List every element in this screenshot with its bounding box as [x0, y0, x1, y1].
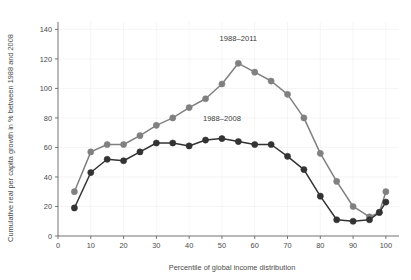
- x-tick-label: 60: [251, 241, 259, 250]
- data-point-marker: [252, 69, 258, 75]
- data-point-marker: [334, 178, 340, 184]
- data-point-marker: [235, 60, 241, 66]
- data-point-marker: [334, 217, 340, 223]
- chart-container: 020406080100120140 010203040506070809010…: [0, 0, 411, 280]
- data-point-marker: [268, 78, 274, 84]
- data-point-marker: [366, 217, 372, 223]
- x-tick-label: 30: [152, 241, 160, 250]
- x-tick-label: 70: [283, 241, 291, 250]
- data-point-marker: [301, 115, 307, 121]
- data-point-marker: [350, 203, 356, 209]
- data-point-marker: [71, 189, 77, 195]
- y-tick-label: 140: [40, 25, 52, 34]
- x-tick-label: 90: [349, 241, 357, 250]
- data-point-marker: [219, 81, 225, 87]
- data-point-marker: [88, 149, 94, 155]
- y-tick-label: 20: [44, 202, 52, 211]
- x-axis-title: Percentile of global income distribution: [169, 263, 296, 272]
- data-point-marker: [301, 166, 307, 172]
- data-point-marker: [317, 193, 323, 199]
- x-tick-label: 20: [119, 241, 127, 250]
- y-axis-title: Cumulative real per capita growth in % b…: [6, 34, 15, 242]
- data-point-marker: [137, 133, 143, 139]
- x-tick-label: 80: [316, 241, 324, 250]
- y-tick-label: 0: [48, 232, 52, 241]
- data-point-marker: [153, 140, 159, 146]
- x-tick-label: 0: [56, 241, 60, 250]
- data-point-marker: [202, 96, 208, 102]
- data-point-marker: [88, 169, 94, 175]
- y-tick-label: 60: [44, 143, 52, 152]
- data-point-marker: [376, 209, 382, 215]
- x-tick-label: 40: [185, 241, 193, 250]
- data-point-marker: [383, 189, 389, 195]
- data-point-marker: [252, 141, 258, 147]
- data-point-marker: [137, 149, 143, 155]
- data-point-marker: [202, 137, 208, 143]
- x-tick-label: 50: [218, 241, 226, 250]
- data-point-marker: [317, 150, 323, 156]
- y-tick-label: 40: [44, 173, 52, 182]
- data-point-marker: [71, 205, 77, 211]
- annotation-label-1988-2011: 1988–2011: [220, 34, 257, 43]
- y-tick-label: 100: [40, 84, 52, 93]
- y-tick-label: 80: [44, 114, 52, 123]
- data-point-marker: [268, 141, 274, 147]
- chart-svg: 020406080100120140 010203040506070809010…: [0, 0, 411, 280]
- data-point-marker: [120, 141, 126, 147]
- data-point-marker: [120, 158, 126, 164]
- data-point-marker: [219, 135, 225, 141]
- data-point-marker: [350, 218, 356, 224]
- annotation-label-1988-2008: 1988–2008: [203, 114, 241, 123]
- data-point-marker: [170, 115, 176, 121]
- data-point-marker: [284, 153, 290, 159]
- data-point-marker: [104, 156, 110, 162]
- data-point-marker: [284, 91, 290, 97]
- data-point-marker: [170, 140, 176, 146]
- data-point-marker: [104, 141, 110, 147]
- data-point-marker: [186, 143, 192, 149]
- data-point-marker: [153, 122, 159, 128]
- data-point-marker: [235, 138, 241, 144]
- y-tick-label: 120: [40, 55, 52, 64]
- x-tick-label: 10: [87, 241, 95, 250]
- data-point-marker: [383, 199, 389, 205]
- data-point-marker: [186, 105, 192, 111]
- x-tick-label: 100: [380, 241, 392, 250]
